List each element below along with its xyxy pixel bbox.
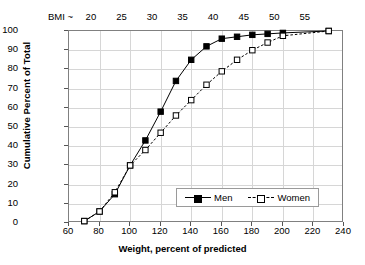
y-tick-label: 80 — [0, 63, 18, 72]
data-point — [127, 163, 132, 168]
bmi-tick-label: 25 — [106, 11, 136, 22]
data-point — [219, 36, 224, 41]
data-point — [143, 147, 148, 152]
y-tick-label: 0 — [0, 217, 18, 226]
x-tick-label: 60 — [53, 225, 83, 236]
data-point — [189, 97, 194, 102]
legend-swatch-women — [248, 193, 274, 202]
legend-swatch-men — [185, 193, 211, 202]
data-point — [250, 48, 255, 53]
data-point — [204, 44, 209, 49]
y-tick-label: 90 — [0, 44, 18, 53]
legend-item-men: Men — [185, 192, 232, 203]
bmi-tick-label: 45 — [229, 11, 259, 22]
x-tick-label: 220 — [297, 225, 327, 236]
x-axis-title: Weight, percent of predicted — [0, 243, 365, 254]
legend-item-women: Women — [248, 192, 310, 203]
data-point — [97, 209, 102, 214]
bmi-axis-caption: BMI ~ — [48, 11, 73, 22]
bmi-tick-label: 20 — [76, 11, 106, 22]
x-tick-label: 100 — [114, 225, 144, 236]
chart-figure: Cumulative Percent of Total Weight, perc… — [0, 0, 365, 265]
x-tick-label: 140 — [175, 225, 205, 236]
bmi-tick-label: 40 — [198, 11, 228, 22]
data-point — [82, 218, 87, 223]
data-point — [189, 57, 194, 62]
data-point — [265, 31, 270, 36]
x-tick-label: 120 — [145, 225, 175, 236]
legend-marker-women — [257, 195, 265, 203]
data-point — [265, 40, 270, 45]
legend-label-women: Women — [277, 192, 310, 203]
bmi-tick-label: 30 — [137, 11, 167, 22]
data-point — [204, 82, 209, 87]
y-tick-label: 40 — [0, 140, 18, 149]
data-point — [326, 28, 331, 33]
data-point — [143, 138, 148, 143]
x-tick-label: 180 — [236, 225, 266, 236]
x-tick-label: 240 — [328, 225, 358, 236]
data-point — [173, 78, 178, 83]
data-point — [112, 190, 117, 195]
chart-legend: Men Women — [176, 188, 319, 207]
bmi-tick-label: 35 — [168, 11, 198, 22]
data-point — [158, 109, 163, 114]
y-tick-label: 50 — [0, 121, 18, 130]
legend-marker-men — [194, 195, 202, 203]
data-point — [173, 113, 178, 118]
data-point — [158, 130, 163, 135]
bmi-tick-label: 55 — [290, 11, 320, 22]
data-point — [234, 34, 239, 39]
y-tick-label: 30 — [0, 159, 18, 168]
y-tick-label: 60 — [0, 102, 18, 111]
y-tick-label: 100 — [0, 25, 18, 34]
y-tick-label: 70 — [0, 83, 18, 92]
data-point — [250, 32, 255, 37]
data-point — [234, 57, 239, 62]
x-tick-label: 160 — [206, 225, 236, 236]
data-point — [280, 33, 285, 38]
data-point — [219, 69, 224, 74]
y-tick-label: 20 — [0, 179, 18, 188]
y-axis-title: Cumulative Percent of Total — [21, 16, 32, 196]
legend-label-men: Men — [214, 192, 232, 203]
bmi-tick-label: 50 — [259, 11, 289, 22]
x-tick-label: 200 — [267, 225, 297, 236]
x-tick-label: 80 — [84, 225, 114, 236]
y-tick-label: 10 — [0, 198, 18, 207]
